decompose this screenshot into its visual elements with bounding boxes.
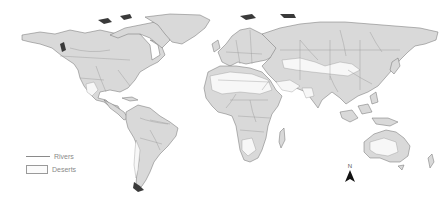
legend-item-deserts: Deserts (26, 163, 76, 176)
legend-label-deserts: Deserts (52, 166, 76, 173)
north-arrow: N (343, 163, 357, 182)
south-america (126, 105, 178, 192)
river-line-symbol (26, 156, 50, 157)
legend-label-rivers: Rivers (54, 153, 74, 160)
north-arrow-icon (345, 170, 355, 182)
map-legend: Rivers Deserts (26, 150, 76, 176)
north-america (22, 14, 210, 120)
north-label: N (343, 163, 357, 169)
desert-box-symbol (26, 165, 48, 174)
legend-item-rivers: Rivers (26, 150, 76, 163)
